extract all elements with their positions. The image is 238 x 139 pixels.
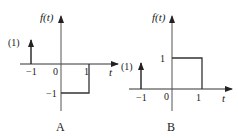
panel-a-tick-neg-one: −1	[26, 66, 37, 77]
panel-b-tick-one: 1	[196, 92, 201, 103]
panel-a-caption: A	[56, 120, 65, 134]
panel-b-x-label: t	[222, 92, 226, 104]
panel-a-impulse-label: (1)	[8, 37, 20, 49]
panel-a-y-label: f(t)	[40, 11, 54, 24]
panel-b-tick-y-one: 1	[160, 53, 165, 64]
panel-b-pulse	[172, 58, 202, 89]
panel-b-caption: B	[167, 120, 175, 134]
panel-a-x-label: t	[109, 66, 113, 78]
signal-diagram: f(t) (1) −1 0 1 t −1 A f(t) (1) 1 −1 0 1…	[0, 0, 238, 139]
panel-a-tick-zero: 0	[53, 66, 58, 77]
panel-b-tick-neg-one: −1	[136, 92, 147, 103]
panel-a: f(t) (1) −1 0 1 t −1 A	[8, 11, 118, 134]
panel-a-tick-y-neg-one: −1	[46, 88, 57, 99]
panel-b-tick-zero: 0	[164, 91, 169, 102]
panel-a-tick-one: 1	[84, 66, 89, 77]
panel-b-y-label: f(t)	[152, 11, 166, 24]
panel-b-impulse-label: (1)	[121, 61, 133, 73]
panel-b: f(t) (1) 1 −1 0 1 t B	[121, 11, 232, 134]
